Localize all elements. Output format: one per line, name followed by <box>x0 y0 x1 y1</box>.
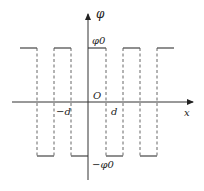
d-label: d <box>111 106 117 117</box>
potential-diagram: φ φ0 O −d d x −φ0 <box>0 0 204 191</box>
y-axis-label: φ <box>96 7 105 21</box>
phi0-label: φ0 <box>92 35 106 46</box>
diagram-svg: φ φ0 O −d d x −φ0 <box>0 0 204 191</box>
neg-d-label: −d <box>56 106 71 117</box>
neg-phi0-label: −φ0 <box>92 159 114 170</box>
x-axis-label: x <box>184 107 190 118</box>
origin-label: O <box>93 90 101 101</box>
